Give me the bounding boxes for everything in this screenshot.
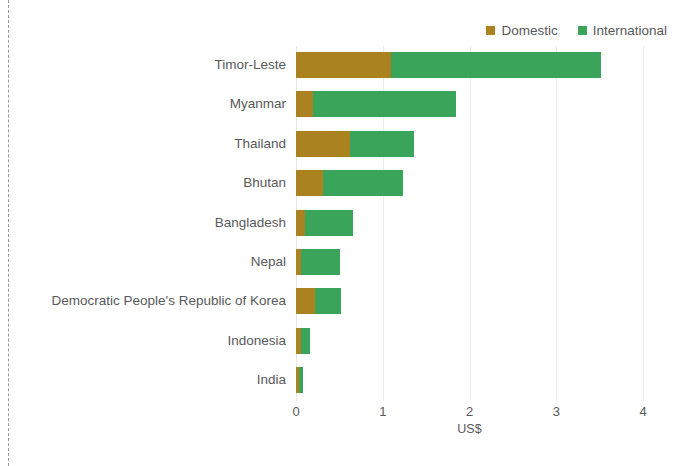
bar-segment-domestic[interactable] [296, 91, 313, 117]
stacked-bar-chart: Domestic International Timor-LesteMyanma… [0, 0, 683, 466]
category-label: Bangladesh [215, 210, 286, 236]
chart-legend: Domestic International [486, 23, 667, 38]
bar-segment-international[interactable] [301, 328, 310, 354]
bar-segment-international[interactable] [305, 210, 354, 236]
bar-segment-domestic[interactable] [296, 288, 315, 314]
bar-segment-international[interactable] [391, 52, 601, 78]
x-tick-label: 2 [466, 404, 473, 419]
bar-row[interactable] [296, 367, 303, 393]
legend-swatch-international [578, 26, 587, 35]
legend-item-international[interactable]: International [578, 23, 667, 38]
bar-row[interactable] [296, 210, 353, 236]
legend-swatch-domestic [486, 26, 495, 35]
bar-row[interactable] [296, 131, 414, 157]
category-label: Democratic People's Republic of Korea [52, 288, 286, 314]
category-label: Bhutan [243, 170, 286, 196]
bar-segment-domestic[interactable] [296, 170, 323, 196]
category-label: Thailand [234, 131, 286, 157]
bar-row[interactable] [296, 328, 310, 354]
bar-segment-domestic[interactable] [296, 210, 305, 236]
bar-segment-international[interactable] [299, 367, 302, 393]
bar-segment-domestic[interactable] [296, 131, 350, 157]
x-axis-tick-labels: 01234 [296, 404, 643, 424]
legend-label-international: International [593, 23, 667, 38]
gridline-4 [643, 46, 644, 401]
x-tick-label: 4 [639, 404, 646, 419]
x-tick-label: 3 [553, 404, 560, 419]
bar-segment-domestic[interactable] [296, 52, 391, 78]
x-axis-title: US$ [296, 422, 643, 436]
bar-segment-international[interactable] [315, 288, 341, 314]
x-tick-label: 0 [292, 404, 299, 419]
gridline-3 [556, 46, 557, 401]
legend-label-domestic: Domestic [501, 23, 557, 38]
bar-segment-international[interactable] [301, 249, 340, 275]
bar-row[interactable] [296, 170, 403, 196]
x-tick-label: 1 [379, 404, 386, 419]
category-label: Nepal [251, 249, 286, 275]
bar-segment-international[interactable] [313, 91, 456, 117]
bar-segment-international[interactable] [323, 170, 403, 196]
bar-segment-international[interactable] [350, 131, 414, 157]
bar-row[interactable] [296, 288, 341, 314]
category-label: Timor-Leste [214, 52, 286, 78]
y-axis-category-labels: Timor-LesteMyanmarThailandBhutanBanglade… [0, 46, 286, 401]
category-label: Myanmar [230, 91, 286, 117]
plot-area [296, 46, 643, 401]
chart-title [120, 0, 570, 1]
gridline-2 [470, 46, 471, 401]
bar-row[interactable] [296, 52, 601, 78]
category-label: Indonesia [227, 328, 286, 354]
legend-item-domestic[interactable]: Domestic [486, 23, 557, 38]
bar-row[interactable] [296, 91, 456, 117]
category-label: India [257, 367, 286, 393]
bar-row[interactable] [296, 249, 340, 275]
